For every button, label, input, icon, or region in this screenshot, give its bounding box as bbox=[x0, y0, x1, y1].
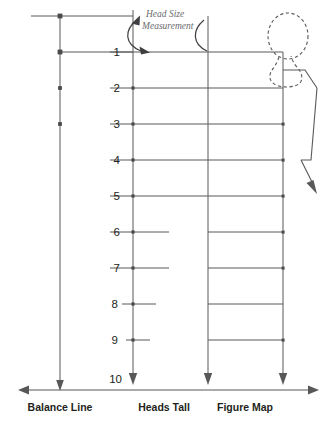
scale-number-3: 3 bbox=[114, 118, 120, 130]
figure-arm-line bbox=[301, 160, 313, 184]
scale-number-8: 8 bbox=[112, 298, 118, 310]
baseline-arrow-right bbox=[308, 385, 319, 394]
diagram-canvas: 1 2 3 4 5 6 7 8 9 10 Head Size Measureme… bbox=[0, 0, 328, 444]
figure-node-5 bbox=[282, 195, 285, 198]
scale-node-8 bbox=[131, 302, 134, 305]
scale-node-2 bbox=[131, 86, 134, 89]
figure-proportion-diagram: 1 2 3 4 5 6 7 8 9 10 Head Size Measureme… bbox=[0, 0, 328, 444]
baseline-arrow-left bbox=[18, 385, 29, 394]
scale-node-4 bbox=[131, 158, 134, 161]
balance-node-head bbox=[58, 50, 63, 55]
label-balance-line: Balance Line bbox=[28, 401, 93, 413]
figure-shoulder-left bbox=[283, 70, 317, 88]
figure-node-6 bbox=[282, 231, 285, 234]
figure-arm-arrowhead bbox=[307, 180, 318, 194]
annotation-line-1: Head Size bbox=[145, 9, 184, 19]
figure-node-9 bbox=[282, 339, 285, 342]
scale-node-7 bbox=[131, 266, 134, 269]
scale-node-9 bbox=[131, 338, 134, 341]
figure-neck-outline bbox=[270, 56, 302, 87]
figure-node-7 bbox=[282, 267, 285, 270]
heads-tall-group: 1 2 3 4 5 6 7 8 9 10 bbox=[109, 10, 283, 385]
scale-node-5 bbox=[131, 194, 134, 197]
balance-node-low bbox=[58, 122, 62, 126]
baseline-group bbox=[18, 385, 319, 394]
figure-torso-right bbox=[301, 88, 317, 160]
scale-number-5: 5 bbox=[114, 190, 120, 202]
human-figure-overlay bbox=[268, 13, 317, 194]
balance-node-top bbox=[58, 14, 63, 19]
scale-number-6: 6 bbox=[114, 226, 120, 238]
scale-number-1: 1 bbox=[114, 46, 120, 58]
scale-number-2: 2 bbox=[114, 82, 120, 94]
head-measure-curve-right bbox=[195, 20, 207, 51]
figure-map-center-arrowhead bbox=[279, 373, 287, 385]
head-size-measurement-annotation: Head Size Measurement bbox=[128, 9, 207, 55]
scale-number-10: 10 bbox=[109, 373, 122, 385]
figure-map-group bbox=[204, 16, 287, 385]
scale-number-4: 4 bbox=[114, 154, 121, 166]
column-labels-group: Balance Line Heads Tall Figure Map bbox=[28, 401, 273, 413]
heads-tall-arrowhead bbox=[129, 373, 137, 385]
figure-node-3 bbox=[282, 123, 285, 126]
figure-map-left-arrowhead bbox=[204, 373, 212, 385]
scale-number-9: 9 bbox=[112, 334, 118, 346]
annotation-line-2: Measurement bbox=[141, 21, 194, 31]
scale-number-7: 7 bbox=[114, 262, 120, 274]
head-measure-arrow-down bbox=[140, 47, 151, 55]
label-heads-tall: Heads Tall bbox=[138, 401, 190, 413]
figure-node-4 bbox=[282, 159, 285, 162]
scale-node-6 bbox=[131, 230, 134, 233]
scale-node-3 bbox=[131, 122, 134, 125]
balance-node-mid bbox=[58, 86, 62, 90]
balance-line-arrowhead bbox=[56, 380, 64, 391]
label-figure-map: Figure Map bbox=[217, 401, 273, 413]
